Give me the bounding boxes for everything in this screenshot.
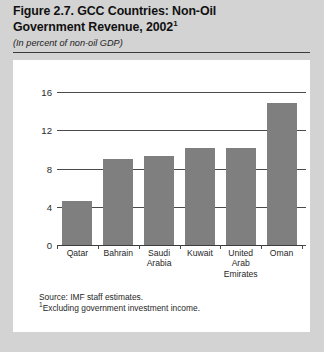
x-axis-label-oman: Oman [261,248,302,279]
y-tick-label-12: 12 [41,125,52,136]
bar-slot [261,92,302,245]
x-axis-labels: QatarBahrainSaudiArabiaKuwaitUnitedArabE… [57,248,302,279]
x-tick-6 [302,245,303,249]
footnote-source: Source: IMF staff estimates. [39,292,289,303]
footnote-note-text: Excluding government investment income. [43,303,200,313]
y-tick-mark-4 [302,207,306,208]
x-axis-label-kuwait: Kuwait [179,248,220,279]
bar-united-arab-emirates [226,148,256,245]
y-tick-label-16: 16 [41,87,52,98]
figure-title-line2: Government Revenue, 2002 [13,20,173,34]
y-tick-label-8: 8 [47,163,52,174]
bar-bahrain [103,159,133,245]
footnotes: Source: IMF staff estimates. 1Excluding … [39,292,289,314]
figure-header: Figure 2.7. GCC Countries: Non-Oil Gover… [13,4,311,49]
y-tick-mark-12 [302,130,306,131]
bar-slot [98,92,139,245]
bar-slot [179,92,220,245]
bar-slot [220,92,261,245]
footnote-note: 1Excluding government investment income. [39,303,289,314]
bar-saudi-arabia [144,156,174,245]
figure-title-superscript: 1 [173,18,177,27]
figure-subtitle: (In percent of non-oil GDP) [13,37,311,49]
bar-slot [57,92,98,245]
x-axis-label-saudi-arabia: SaudiArabia [139,248,180,279]
bar-slot [139,92,180,245]
bar-kuwait [185,148,215,245]
bar-oman [267,103,297,245]
x-axis-label-united-arab-emirates: UnitedArabEmirates [220,248,261,279]
y-tick-mark-8 [302,169,306,170]
chart-card: 0481216 QatarBahrainSaudiArabiaKuwaitUni… [13,60,310,332]
y-tick-label-4: 4 [47,201,52,212]
page-title: Figure 2.7. GCC Countries: Non-Oil Gover… [13,4,311,35]
plot-area: 0481216 [57,92,302,245]
bar-series [57,92,302,245]
bar-qatar [62,201,92,245]
y-tick-mark-16 [302,92,306,93]
y-tick-label-0: 0 [47,240,52,251]
x-axis-label-qatar: Qatar [57,248,98,279]
header-divider [13,52,310,53]
x-axis-label-bahrain: Bahrain [98,248,139,279]
figure-title-line1: Figure 2.7. GCC Countries: Non-Oil [13,4,216,18]
